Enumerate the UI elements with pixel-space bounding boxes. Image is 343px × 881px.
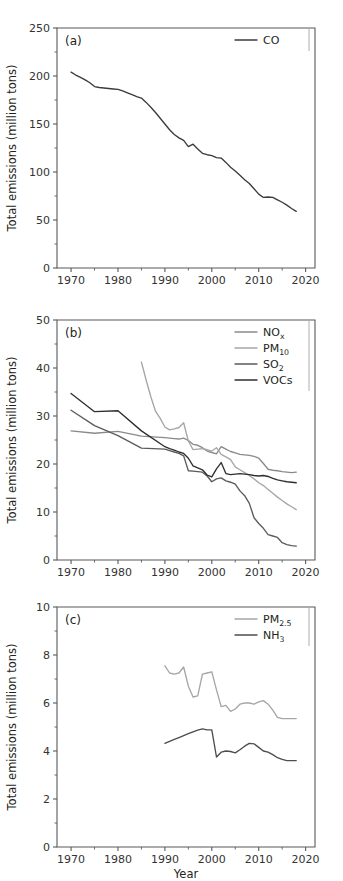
x-tick-label: 1970	[57, 566, 85, 579]
x-tick-label: 1990	[151, 853, 179, 866]
plot-frame	[57, 28, 315, 268]
x-tick-label: 1980	[104, 274, 132, 287]
legend-label-vocs: VOCs	[263, 374, 293, 387]
series-line-nox	[71, 431, 296, 473]
x-tick-label: 1980	[104, 853, 132, 866]
x-axis-title: Year	[173, 867, 199, 881]
x-tick-label: 2010	[245, 566, 273, 579]
legend-label-so2: SO2	[263, 358, 284, 373]
y-tick-label: 4	[43, 745, 50, 758]
panel-b-criteria-pollutants: 01020304050197019801990200020102020Total…	[0, 292, 343, 592]
y-tick-label: 40	[36, 362, 50, 375]
y-tick-label: 250	[29, 22, 50, 35]
legend-label-pm25: PM2.5	[263, 613, 292, 628]
panel-a-co: 050100150200250197019801990200020102020T…	[0, 0, 343, 300]
emissions-figure: 050100150200250197019801990200020102020T…	[0, 0, 343, 881]
y-tick-label: 0	[43, 554, 50, 567]
y-tick-label: 2	[43, 793, 50, 806]
panel-tag: (b)	[65, 326, 82, 340]
series-line-co	[71, 72, 296, 211]
x-tick-label: 1970	[57, 274, 85, 287]
x-tick-label: 2020	[292, 566, 320, 579]
y-tick-label: 10	[36, 506, 50, 519]
y-tick-label: 200	[29, 70, 50, 83]
series-line-pm25	[165, 666, 296, 719]
y-tick-label: 150	[29, 118, 50, 131]
x-tick-label: 2020	[292, 274, 320, 287]
x-tick-label: 2010	[245, 274, 273, 287]
y-tick-label: 20	[36, 458, 50, 471]
y-tick-label: 10	[36, 601, 50, 614]
legend-label-nh3: NH3	[263, 629, 285, 644]
chart-c: 0246810197019801990200020102020Total emi…	[0, 584, 343, 881]
legend-label-nox: NOx	[263, 326, 285, 341]
legend-label-pm10: PM10	[263, 342, 289, 357]
y-tick-label: 50	[36, 214, 50, 227]
chart-b: 01020304050197019801990200020102020Total…	[0, 292, 343, 592]
legend-label-co: CO	[263, 34, 280, 47]
y-tick-label: 8	[43, 649, 50, 662]
x-tick-label: 2000	[198, 566, 226, 579]
y-tick-label: 100	[29, 166, 50, 179]
y-tick-label: 30	[36, 410, 50, 423]
panel-c-pm25-nh3: 0246810197019801990200020102020Total emi…	[0, 584, 343, 881]
x-tick-label: 2010	[245, 853, 273, 866]
y-tick-label: 0	[43, 262, 50, 275]
y-tick-label: 50	[36, 314, 50, 327]
series-line-nh3	[165, 729, 296, 761]
panel-tag: (a)	[65, 34, 82, 48]
x-tick-label: 1980	[104, 566, 132, 579]
x-tick-label: 1990	[151, 274, 179, 287]
x-tick-label: 2020	[292, 853, 320, 866]
plot-frame	[57, 607, 315, 847]
y-tick-label: 0	[43, 841, 50, 854]
chart-a: 050100150200250197019801990200020102020T…	[0, 0, 343, 300]
x-tick-label: 2000	[198, 853, 226, 866]
panel-tag: (c)	[65, 613, 81, 627]
series-line-so2	[71, 410, 296, 546]
x-tick-label: 1970	[57, 853, 85, 866]
y-axis-title: Total emissions (million tons)	[5, 357, 19, 525]
y-tick-label: 6	[43, 697, 50, 710]
x-tick-label: 2000	[198, 274, 226, 287]
x-tick-label: 1990	[151, 566, 179, 579]
y-axis-title: Total emissions (million tons)	[5, 644, 19, 812]
y-axis-title: Total emissions (million tons)	[5, 65, 19, 233]
